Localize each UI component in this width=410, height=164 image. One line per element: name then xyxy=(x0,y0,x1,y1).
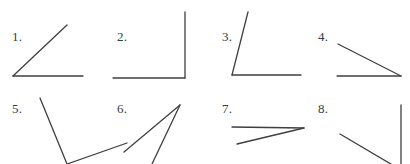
figure-5 xyxy=(40,98,127,164)
figure-7-horizontal-left-ray xyxy=(232,127,304,128)
figure-4 xyxy=(337,44,401,76)
figure-6-down-left-shallow-ray xyxy=(124,105,180,152)
angle-figures-canvas xyxy=(0,0,410,164)
figure-6-down-left-steep-ray xyxy=(152,105,180,164)
figure-2 xyxy=(113,12,185,78)
figure-1-label: 1. xyxy=(12,30,22,43)
figure-5-up-right-diagonal-ray xyxy=(67,143,127,164)
figure-3 xyxy=(232,12,301,75)
figure-7 xyxy=(232,127,304,144)
figure-5-steep-up-left-ray xyxy=(40,98,67,164)
figure-8-label: 8. xyxy=(318,102,328,115)
figure-8-up-left-diagonal-ray xyxy=(340,134,401,164)
figure-6 xyxy=(124,105,180,164)
angle-worksheet: 1. 2. 3. 4. 5. 6. 7. 8. xyxy=(0,0,410,164)
figure-4-shallow-up-left-ray xyxy=(338,44,401,76)
figure-2-label: 2. xyxy=(117,30,127,43)
figure-7-shallow-down-left-ray xyxy=(237,128,304,144)
figure-5-label: 5. xyxy=(12,102,22,115)
figure-3-steep-up-right-ray xyxy=(232,12,248,75)
figure-7-label: 7. xyxy=(222,102,232,115)
figure-4-label: 4. xyxy=(318,30,328,43)
figure-1 xyxy=(13,25,83,76)
figure-3-label: 3. xyxy=(222,30,232,43)
figure-8 xyxy=(340,105,401,164)
figure-6-label: 6. xyxy=(117,102,127,115)
